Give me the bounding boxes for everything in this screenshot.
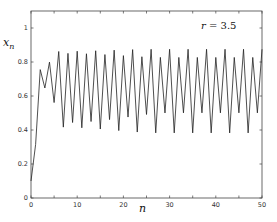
y-tick-label: 0 [24,194,28,202]
x-axis-label: n [139,202,146,215]
x-tick-label: 10 [73,201,81,209]
y-axis-label: xn [3,36,14,51]
x-tick-label: 30 [165,201,173,209]
x-tick-label: 20 [119,201,127,209]
plot-frame [31,11,262,198]
y-tick-label: 1 [24,24,28,32]
x-tick-label: 0 [29,201,33,209]
x-tick-label: 50 [258,201,266,209]
data-line [31,49,262,181]
annotation-r-value: r = 3.5 [201,20,236,31]
logistic-map-chart: 00.20.40.60.81 01020304050 xn n r = 3.5 [0,0,277,222]
y-tick-label: 0.8 [18,58,28,66]
y-tick-label: 0.6 [18,92,28,100]
x-tick-label: 40 [212,201,220,209]
y-tick-label: 0.4 [18,126,28,134]
y-tick-label: 0.2 [18,160,28,168]
